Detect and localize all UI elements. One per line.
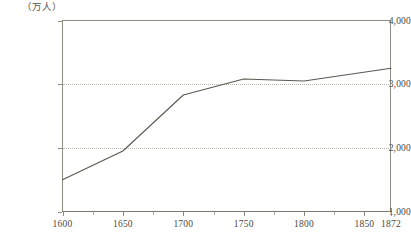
x-tick-label-1700: 1700 <box>173 219 193 230</box>
y-tick-label-1000: 1,000 <box>355 207 411 217</box>
x-tick-label-1872: 1872 <box>381 219 401 230</box>
x-tick-label-1750: 1750 <box>234 219 254 230</box>
x-tick-minor-1625 <box>93 212 94 215</box>
x-tick-label-1650: 1650 <box>113 219 133 230</box>
x-axis-line <box>62 211 392 212</box>
x-tick-mark-1800 <box>304 212 305 216</box>
x-tick-minor-1825 <box>334 212 335 215</box>
y-tick-mark-2000 <box>58 148 62 149</box>
x-tick-mark-1650 <box>123 212 124 216</box>
y-tick-label-2000: 2,000 <box>355 143 411 153</box>
x-tick-minor-1675 <box>153 212 154 215</box>
x-tick-minor-1725 <box>214 212 215 215</box>
y-tick-mark-3000 <box>58 84 62 85</box>
x-tick-label-1800: 1800 <box>294 219 314 230</box>
y-tick-mark-1000 <box>58 212 62 213</box>
y-tick-mark-4000 <box>58 21 62 22</box>
population-line-chart: （万人） 4,0003,0002,0001,000 16001650170017… <box>0 0 411 240</box>
x-tick-mark-1600 <box>63 212 64 216</box>
x-tick-minor-1775 <box>274 212 275 215</box>
y-tick-label-3000: 3,000 <box>355 79 411 89</box>
x-tick-mark-1700 <box>183 212 184 216</box>
x-tick-mark-1750 <box>244 212 245 216</box>
plot-area-frame <box>62 20 391 212</box>
x-tick-mark-1850 <box>364 212 365 216</box>
x-tick-label-1850: 1850 <box>354 219 374 230</box>
gridline-y-3000 <box>63 84 391 85</box>
y-axis-unit-label: （万人） <box>22 1 62 12</box>
gridline-y-2000 <box>63 148 391 149</box>
cropped-top-caption <box>104 0 364 6</box>
x-tick-mark-1872 <box>391 212 392 216</box>
y-tick-label-4000: 4,000 <box>355 16 411 26</box>
x-tick-label-1600: 1600 <box>53 219 73 230</box>
